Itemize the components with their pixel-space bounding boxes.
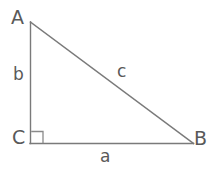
side-c-hypotenuse xyxy=(31,22,194,144)
side-label-b: b xyxy=(13,66,24,83)
side-label-c: c xyxy=(117,63,126,80)
vertex-label-b: B xyxy=(194,129,207,148)
vertex-label-a: A xyxy=(11,8,24,27)
right-angle-marker-icon xyxy=(31,132,43,144)
side-label-a: a xyxy=(100,148,110,165)
vertex-label-c: C xyxy=(12,128,25,147)
right-triangle-drawing xyxy=(0,0,214,169)
geometry-figure: A C B b c a xyxy=(0,0,214,169)
